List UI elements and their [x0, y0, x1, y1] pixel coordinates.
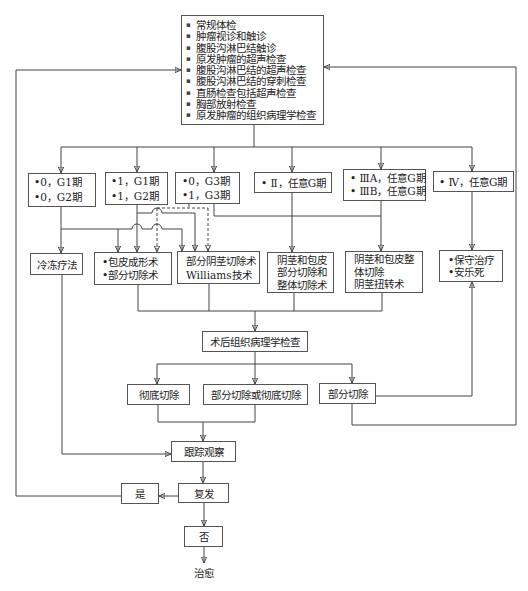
stage-box-g3: •0，G3期 •1，G3期 — [175, 172, 240, 204]
treatment-label: •部分切除术 — [102, 269, 158, 282]
initial-examination-box: ▪常规体检 ▪肿瘤视诊和触诊 ▪腹股沟淋巴结触诊 ▪原发肿瘤的超声检查 ▪腹股沟… — [181, 15, 324, 125]
treatment-total-resection-rotation: 阴茎和包皮整 体切除 阴茎扭转术 — [345, 251, 423, 293]
treatment-label: 阴茎扭转术 — [354, 278, 404, 291]
treatment-label: 阴茎和包皮整 — [354, 253, 414, 266]
bullet-icon: ▪ — [186, 54, 196, 65]
recurrence-yes-box: 是 — [121, 483, 159, 504]
bullet-icon: ▪ — [186, 31, 196, 42]
treatment-label: •安乐死 — [448, 266, 484, 278]
treatment-partial-penectomy-williams: 部分阴茎切除术 Williams技术 — [177, 251, 260, 284]
treatment-label: •保守治疗 — [448, 254, 494, 266]
stage-label: • ⅢA，任意G期 — [350, 172, 426, 185]
connector-results-merge — [158, 405, 255, 422]
treatment-label: 冷冻疗法 — [37, 257, 77, 272]
treatment-label: •包皮成形术 — [102, 256, 158, 269]
stage-label: • Ⅳ，任意G期 — [439, 174, 507, 189]
treatment-cryotherapy: 冷冻疗法 — [30, 253, 83, 275]
stage-box-II: • Ⅱ，任意G期 — [254, 172, 332, 193]
arrow-cryotherapy-to-follow-up — [62, 275, 171, 454]
arrow-partial-to-conservative — [376, 282, 472, 396]
stage-label: •1，G3期 — [182, 188, 230, 202]
treatment-label: 整体切除术 — [277, 279, 327, 292]
treatment-label: 阴茎和包皮 — [277, 254, 327, 267]
bullet-icon: ▪ — [186, 65, 196, 76]
arrow-stage1-to-williams — [61, 224, 182, 251]
stage-label: •1，G2期 — [111, 189, 159, 204]
bullet-icon: ▪ — [186, 110, 196, 121]
recurrence-box: 复发 — [178, 483, 229, 503]
exam-item: ▪肿瘤视诊和触诊 — [186, 31, 266, 42]
treatment-label: Williams技术 — [186, 268, 252, 282]
connector-stage3-to-stageIII-line — [214, 204, 381, 216]
treatment-conservative-euthanasia: •保守治疗 •安乐死 — [439, 250, 503, 282]
exam-item-label: 肿瘤视诊和触诊 — [196, 31, 266, 42]
follow-up-box: 跟踪观察 — [171, 441, 236, 462]
stage-label: •1，G1期 — [111, 174, 159, 189]
exam-item: ▪原发肿瘤的组织病理学检查 — [186, 110, 316, 121]
result-partial-resection: 部分切除 — [319, 383, 376, 404]
result-partial-or-complete-resection: 部分切除或彻底切除 — [203, 384, 308, 405]
stage-box-III: • ⅢA，任意G期 • ⅢB，任意G期 — [343, 169, 426, 201]
treatment-label: 体切除 — [354, 266, 384, 279]
stage-box-1-g1-g2: •1，G1期 •1，G2期 — [105, 172, 168, 205]
outcome-cured-label: 治愈 — [179, 565, 229, 581]
treatment-label: 部分切除和 — [277, 266, 327, 279]
yes-label: 是 — [135, 486, 145, 501]
treatment-label: 部分阴茎切除术 — [186, 254, 256, 268]
arrow-partial-back-to-exam — [324, 67, 516, 425]
stage-label: •0，G1期 — [34, 175, 82, 190]
result-label: 部分切除 — [328, 386, 368, 401]
stage-label: • Ⅱ，任意G期 — [261, 175, 326, 190]
bullet-icon: ▪ — [186, 20, 196, 31]
stage-label: •0，G2期 — [34, 190, 82, 205]
treatment-circumcision-partial: •包皮成形术 •部分切除术 — [94, 252, 172, 285]
bullet-icon: ▪ — [186, 76, 196, 87]
postoperative-pathology-box: 术后组织病理学检查 — [202, 331, 308, 352]
bullet-icon: ▪ — [186, 43, 196, 54]
stage-box-IV: • Ⅳ，任意G期 — [433, 171, 514, 192]
recurrence-label: 复发 — [194, 486, 214, 501]
result-label: 彻底切除 — [139, 387, 179, 402]
stage-label: •0，G3期 — [182, 174, 230, 188]
result-complete-resection: 彻底切除 — [127, 384, 190, 405]
result-label: 部分切除或彻底切除 — [211, 387, 301, 402]
no-label: 否 — [199, 529, 209, 544]
bullet-icon: ▪ — [186, 88, 196, 99]
recurrence-no-box: 否 — [184, 526, 223, 547]
pathology-label: 术后组织病理学检查 — [210, 334, 300, 349]
stage-label: • ⅢB，任意G期 — [350, 185, 426, 198]
treatment-partial-and-total-resection: 阴茎和包皮 部分切除和 整体切除术 — [267, 252, 334, 293]
treatment-flowchart: ▪常规体检 ▪肿瘤视诊和触诊 ▪腹股沟淋巴结触诊 ▪原发肿瘤的超声检查 ▪腹股沟… — [0, 0, 528, 591]
bullet-icon: ▪ — [186, 99, 196, 110]
follow-up-label: 跟踪观察 — [184, 444, 224, 459]
stage-box-0-g1-g2: •0，G1期 •0，G2期 — [28, 173, 96, 207]
exam-item-label: 原发肿瘤的组织病理学检查 — [196, 110, 316, 121]
